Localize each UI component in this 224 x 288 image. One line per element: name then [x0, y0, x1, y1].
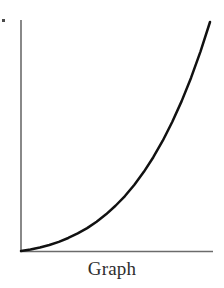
figure-container: Graph [0, 0, 224, 288]
figure-caption: Graph [0, 258, 224, 280]
exponential-curve [21, 22, 210, 251]
graph-plot [0, 0, 224, 288]
